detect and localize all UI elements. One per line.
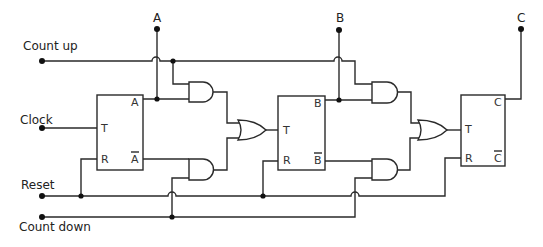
flip-flop-a: T R A A: [97, 95, 143, 170]
svg-text:R: R: [465, 152, 473, 165]
output-a-terminal: [154, 26, 160, 32]
count-down-label: Count down: [19, 220, 91, 234]
svg-text:C: C: [494, 152, 502, 165]
count-up-wire: [42, 57, 372, 84]
svg-text:R: R: [283, 154, 291, 167]
and-gate-2: [189, 159, 213, 180]
count-up-label: Count up: [23, 39, 78, 53]
junction-dot: [336, 97, 341, 102]
clock-label: Clock: [20, 113, 53, 127]
junction-dot: [78, 193, 83, 198]
svg-text:T: T: [464, 123, 472, 136]
and-gate-3: [372, 82, 397, 103]
count-up-terminal: [39, 58, 45, 64]
svg-text:T: T: [100, 122, 108, 135]
clock-terminal: [39, 125, 45, 131]
and-gate-4: [372, 159, 397, 180]
or-gate-2: [418, 120, 447, 140]
reset-terminal: [39, 193, 45, 199]
flip-flop-c: T R C C: [461, 95, 505, 166]
and-2-out-wire: [213, 138, 240, 170]
svg-text:A: A: [131, 153, 139, 166]
svg-text:B: B: [314, 97, 322, 110]
junction-dot: [260, 193, 265, 198]
and-1-out-wire: [213, 92, 240, 123]
svg-text:A: A: [131, 96, 139, 109]
output-a-label: A: [153, 11, 162, 25]
output-c-terminal: [518, 26, 524, 32]
output-b-terminal: [336, 27, 342, 33]
reset-label: Reset: [21, 178, 55, 192]
and-3-out-wire: [397, 92, 420, 123]
output-b-label: B: [336, 11, 344, 25]
svg-text:C: C: [494, 96, 502, 109]
output-c-label: C: [517, 11, 525, 25]
svg-text:T: T: [282, 124, 290, 137]
junction-dot: [154, 96, 159, 101]
count-down-terminal: [39, 214, 45, 220]
svg-text:B: B: [314, 154, 322, 167]
flip-flop-b: T R B B: [278, 96, 325, 170]
svg-text:R: R: [101, 153, 109, 166]
and-4-out-wire: [397, 138, 420, 170]
counter-circuit-diagram: Count up Clock Reset Count down A B C T: [0, 0, 543, 247]
junction-dot: [169, 214, 174, 219]
junction-dot: [170, 58, 175, 63]
output-c-wire: [505, 29, 521, 99]
count-down-wire: [42, 178, 372, 217]
and-gate-1: [189, 82, 213, 102]
or-gate-1: [238, 120, 266, 140]
